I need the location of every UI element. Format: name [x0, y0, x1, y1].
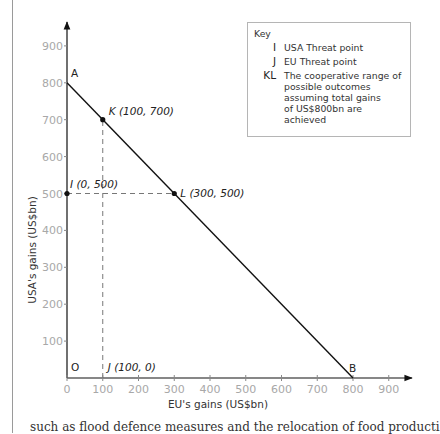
legend-text-line: possible outcomes — [284, 81, 404, 92]
legend-text-line: The cooperative range of — [284, 70, 404, 81]
x-tick-label: 600 — [271, 383, 292, 396]
legend-text-line: assuming total gains — [284, 92, 404, 103]
point-j-label: J (100, 0) — [106, 361, 156, 373]
legend-text-line: EU Threat point — [284, 56, 404, 67]
legend-entry: JEU Threat point — [254, 56, 404, 67]
legend-symbol: KL — [254, 70, 284, 125]
point-k-marker — [100, 117, 105, 122]
y-tick-label: 500 — [42, 188, 63, 201]
legend-text-line: USA Threat point — [284, 42, 404, 53]
legend-text-line: of US$800bn are achieved — [284, 103, 404, 125]
reference-lines — [67, 120, 174, 378]
legend-text: EU Threat point — [284, 56, 404, 67]
point-a-label: A — [71, 67, 79, 79]
y-tick-label: 300 — [42, 261, 63, 274]
x-tick-label: 900 — [378, 383, 399, 396]
legend: Key IUSA Threat pointJEU Threat pointKLT… — [247, 22, 411, 137]
x-tick-label: 400 — [200, 383, 221, 396]
legend-title: Key — [254, 28, 404, 39]
legend-symbol: J — [254, 56, 284, 67]
point-l-label: L (300, 500) — [180, 187, 244, 199]
legend-text: The cooperative range ofpossible outcome… — [284, 70, 404, 125]
y-tick-label: 100 — [42, 335, 63, 348]
y-tick-label: 900 — [42, 40, 63, 53]
y-tick-label: 800 — [42, 77, 63, 90]
body-text: such as flood defence measures and the r… — [30, 420, 440, 434]
x-tick-label: 100 — [92, 383, 113, 396]
y-tick-label: 600 — [42, 151, 63, 164]
x-tick-label: 700 — [307, 383, 328, 396]
y-tick-label: 700 — [42, 114, 63, 127]
point-k-label: K (100, 700) — [109, 105, 174, 117]
y-tick-label: 400 — [42, 224, 63, 237]
point-b-label: B — [349, 362, 356, 374]
legend-entry: IUSA Threat point — [254, 42, 404, 53]
point-i-marker — [64, 191, 69, 196]
legend-text: USA Threat point — [284, 42, 404, 53]
x-tick-label: 800 — [343, 383, 364, 396]
x-tick-label: 300 — [164, 383, 185, 396]
x-tick-label: 200 — [128, 383, 149, 396]
legend-entry: KLThe cooperative range ofpossible outco… — [254, 70, 404, 125]
x-axis-title: EU's gains (US$bn) — [168, 398, 268, 410]
point-o-label: O — [71, 361, 79, 373]
point-i-label: I (0, 500) — [70, 178, 118, 190]
x-tick-label: 0 — [64, 383, 71, 396]
point-l-marker — [172, 191, 177, 196]
y-tick-label: 200 — [42, 298, 63, 311]
legend-symbol: I — [254, 42, 284, 53]
y-axis-title: USA's gains (US$bn) — [26, 196, 38, 303]
x-tick-label: 500 — [235, 383, 256, 396]
y-ticks: 100200300400500600700800900 — [42, 40, 67, 348]
